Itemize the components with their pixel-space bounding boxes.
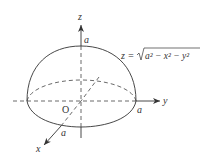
y-axis-label: y bbox=[162, 95, 168, 106]
x-axis-label: x bbox=[35, 143, 41, 154]
y-intercept-label: a bbox=[137, 104, 142, 115]
surface-equation: z = a² − x² − y² bbox=[120, 48, 200, 61]
hemisphere-dome-outline bbox=[27, 46, 136, 101]
equation-lhs: z = bbox=[120, 50, 134, 61]
base-ellipse-front bbox=[27, 101, 136, 127]
z-intercept-label: a bbox=[84, 34, 89, 45]
z-axis-label: z bbox=[77, 11, 82, 22]
x-axis-dashed-back bbox=[81, 77, 99, 101]
x-intercept-label: a bbox=[61, 127, 66, 138]
equation-radicand: a² − x² − y² bbox=[145, 51, 189, 61]
x-axis-arrow bbox=[44, 126, 61, 145]
base-ellipse-back-dashed bbox=[27, 80, 136, 101]
origin-label: O bbox=[62, 104, 69, 115]
hemisphere-diagram: z a y a O a x z = a² − x² − y² bbox=[0, 0, 211, 160]
